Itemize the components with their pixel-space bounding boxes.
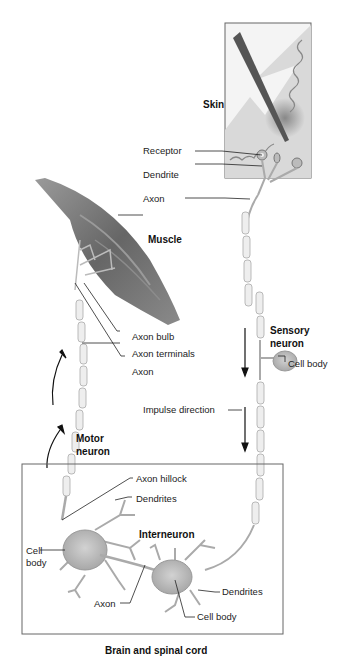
cell-body-interneuron-label: Cell body <box>197 611 237 622</box>
axon-bulb-label: Axon bulb <box>132 331 174 342</box>
dendrites-interneuron-label: Dendrites <box>222 586 263 597</box>
axon-terminals-label: Axon terminals <box>132 348 195 359</box>
cell-body-motor-label-2: body <box>26 557 47 568</box>
sensory-neuron-label-2: neuron <box>270 338 304 349</box>
cell-body-motor-label-1: Cell <box>26 545 42 556</box>
axon-hillock-label: Axon hillock <box>136 473 187 484</box>
skin-inset <box>225 23 311 178</box>
motor-neuron-label-1: Motor <box>76 433 104 444</box>
dendrites-motor-label: Dendrites <box>136 493 177 504</box>
sensory-cell-body-label: Cell body <box>288 358 328 369</box>
muscle-label: Muscle <box>148 234 182 245</box>
sensory-axon-label: Axon <box>143 193 165 204</box>
sensory-neuron-label-1: Sensory <box>270 325 309 336</box>
impulse-direction-label: Impulse direction <box>143 404 215 415</box>
interneuron-label: Interneuron <box>139 529 195 540</box>
motor-axon <box>63 300 87 496</box>
receptor-label: Receptor <box>143 145 182 156</box>
interneuron-axon-label: Axon <box>94 598 116 609</box>
dendrite-label: Dendrite <box>143 169 179 180</box>
cns-box <box>22 464 283 634</box>
cns-label: Brain and spinal cord <box>105 645 207 656</box>
motor-axon-label: Axon <box>132 366 154 377</box>
skin-label: Skin <box>203 99 224 110</box>
motor-neuron-label-2: neuron <box>76 446 110 457</box>
